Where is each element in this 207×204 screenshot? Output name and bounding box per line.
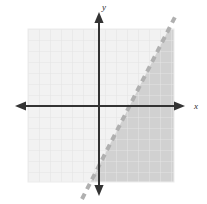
y-axis-arrow-up (94, 12, 103, 23)
coordinate-plane-svg: y x (0, 0, 207, 204)
x-axis-arrow-left (15, 101, 26, 110)
x-axis-label: x (193, 101, 198, 111)
graph-figure: y x (0, 0, 207, 204)
x-axis-arrow-right (174, 101, 185, 110)
y-axis-arrow-down (94, 185, 103, 196)
y-axis-label: y (101, 2, 106, 12)
